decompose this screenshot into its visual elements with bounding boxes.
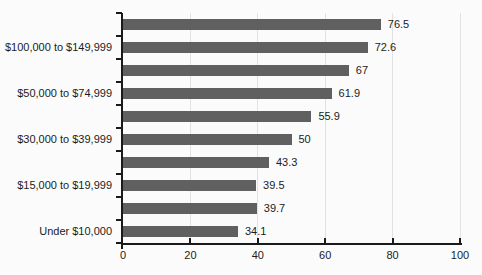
x-axis-tick bbox=[324, 238, 326, 243]
y-axis-tick bbox=[116, 127, 122, 129]
x-axis-line bbox=[121, 243, 462, 245]
y-axis-tick bbox=[116, 173, 122, 175]
x-axis-tick bbox=[257, 238, 259, 243]
x-axis-tick bbox=[392, 238, 394, 243]
gridline bbox=[460, 13, 461, 243]
x-tick-label: 60 bbox=[305, 249, 345, 262]
bar bbox=[123, 157, 269, 168]
bar bbox=[123, 203, 257, 214]
bar bbox=[123, 180, 256, 191]
y-axis-tick bbox=[116, 104, 122, 106]
y-axis-tick bbox=[116, 58, 122, 60]
x-tick-label: 0 bbox=[103, 249, 143, 262]
y-axis-tick bbox=[116, 196, 122, 198]
value-label: 34.1 bbox=[245, 225, 266, 238]
category-label: $30,000 to $39,999 bbox=[2, 133, 112, 146]
y-axis-tick bbox=[116, 219, 122, 221]
y-axis-tick bbox=[116, 81, 122, 83]
value-label: 39.7 bbox=[264, 202, 285, 215]
bar bbox=[123, 88, 332, 99]
y-axis-tick bbox=[116, 12, 122, 14]
bar bbox=[123, 42, 368, 53]
category-label: Under $10,000 bbox=[2, 225, 112, 238]
value-label: 43.3 bbox=[276, 156, 297, 169]
bar bbox=[123, 19, 381, 30]
value-label: 39.5 bbox=[263, 179, 284, 192]
bar bbox=[123, 65, 349, 76]
x-tick-label: 100 bbox=[440, 249, 480, 262]
bar bbox=[123, 134, 292, 145]
value-label: 55.9 bbox=[318, 110, 339, 123]
category-label: $50,000 to $74,999 bbox=[2, 87, 112, 100]
y-axis-tick bbox=[116, 35, 122, 37]
category-label: $100,000 to $149,999 bbox=[2, 41, 112, 54]
x-axis-tick bbox=[459, 238, 461, 243]
y-axis-tick bbox=[116, 150, 122, 152]
value-label: 67 bbox=[356, 64, 368, 77]
category-label: $15,000 to $19,999 bbox=[2, 179, 112, 192]
x-tick-label: 20 bbox=[170, 249, 210, 262]
x-axis-tick bbox=[189, 238, 191, 243]
value-label: 72.6 bbox=[375, 41, 396, 54]
x-tick-label: 40 bbox=[238, 249, 278, 262]
bar-chart: 76.572.6$100,000 to $149,9996761.9$50,00… bbox=[0, 0, 482, 275]
x-tick-label: 80 bbox=[373, 249, 413, 262]
bar bbox=[123, 111, 311, 122]
value-label: 61.9 bbox=[339, 87, 360, 100]
bar bbox=[123, 226, 238, 237]
value-label: 50 bbox=[299, 133, 311, 146]
value-label: 76.5 bbox=[388, 18, 409, 31]
